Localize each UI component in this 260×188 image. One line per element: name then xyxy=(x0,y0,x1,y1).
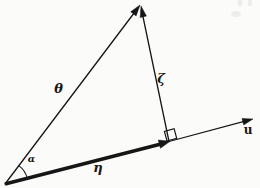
eta-vector-arrowhead xyxy=(158,140,170,148)
eta-label: η xyxy=(93,160,102,175)
theta-label: θ xyxy=(54,81,63,96)
zeta-vector-arrowhead xyxy=(140,6,146,18)
u-ray-shaft xyxy=(169,121,246,142)
zeta-label: ζ xyxy=(157,71,166,86)
scan-noise-speck xyxy=(231,11,241,17)
figure: θ ζ η α u xyxy=(0,0,260,188)
theta-vector-shaft xyxy=(5,9,138,185)
theta-vector-arrowhead xyxy=(131,5,140,16)
u-label: u xyxy=(244,123,253,137)
alpha-angle-arc xyxy=(19,166,28,179)
vector-diagram-svg: θ ζ η α u xyxy=(0,0,260,188)
alpha-label: α xyxy=(28,153,36,164)
zeta-vector-shaft xyxy=(142,10,170,142)
scan-noise-speck xyxy=(238,0,242,6)
eta-vector-shaft xyxy=(5,144,161,184)
scan-noise-speck xyxy=(248,0,252,6)
scan-noise xyxy=(231,0,252,17)
right-angle-marker xyxy=(164,129,176,141)
